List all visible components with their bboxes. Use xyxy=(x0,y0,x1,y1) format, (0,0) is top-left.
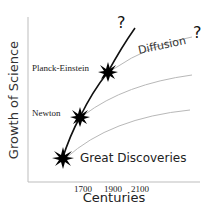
newton-label: Newton xyxy=(32,108,61,118)
great-discoveries-label: Great Discoveries xyxy=(80,151,186,165)
x-tick-1700: 1700 xyxy=(74,184,93,194)
diffusion-label: Diffusion xyxy=(137,34,187,57)
y-axis-label: Growth of Science xyxy=(6,41,21,159)
planck-einstein-label: Planck-Einstein xyxy=(32,63,89,73)
question-mark-diffusion: ? xyxy=(193,23,202,42)
star-icon-great-discoveries xyxy=(52,147,74,169)
x-tick-2100: 2100 xyxy=(131,184,150,194)
star-icon-planck-einstein xyxy=(98,62,118,82)
diffusion-curve-2 xyxy=(84,75,192,115)
x-tick-1900: 1900 xyxy=(104,184,123,194)
diagram-canvas: Growth of Science Centuries 1700 1900 21… xyxy=(0,0,218,220)
star-icon-newton xyxy=(70,107,90,127)
question-mark-main: ? xyxy=(117,13,126,32)
growth-curve xyxy=(62,28,135,160)
